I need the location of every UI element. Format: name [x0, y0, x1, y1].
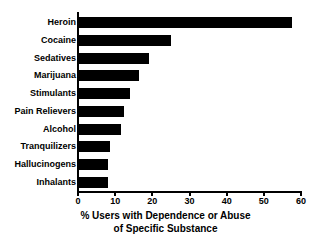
x-tick-label: 0	[63, 196, 93, 206]
x-tick-label: 10	[100, 196, 130, 206]
category-label: Heroin	[0, 17, 76, 28]
category-label: Sedatives	[0, 53, 76, 64]
category-label: Alcohol	[0, 124, 76, 135]
bar	[78, 177, 108, 188]
bar	[78, 17, 292, 28]
bar-row	[78, 141, 301, 152]
bar-chart: HeroinCocaineSedativesMarijuanaStimulant…	[0, 0, 331, 241]
x-tick-label: 40	[212, 196, 242, 206]
plot-area	[78, 14, 301, 191]
bar	[78, 159, 108, 170]
bar	[78, 141, 110, 152]
category-label: Hallucinogens	[0, 159, 76, 170]
x-tick-label: 20	[137, 196, 167, 206]
category-label: Stimulants	[0, 88, 76, 99]
category-label: Marijuana	[0, 70, 76, 81]
category-label: Pain Relievers	[0, 106, 76, 117]
bar	[78, 35, 171, 46]
bar-row	[78, 35, 301, 46]
bar	[78, 106, 124, 117]
x-axis-title-line-1: % Users with Dependence or Abuse	[0, 209, 331, 222]
x-axis-title-line-2: of Specific Substance	[0, 222, 331, 235]
bar-row	[78, 70, 301, 81]
bar-row	[78, 106, 301, 117]
bar-row	[78, 17, 301, 28]
bar	[78, 53, 149, 64]
x-tick-label: 60	[286, 196, 316, 206]
bar-row	[78, 124, 301, 135]
bar-row	[78, 177, 301, 188]
bar-row	[78, 88, 301, 99]
bar	[78, 70, 139, 81]
bar-row	[78, 159, 301, 170]
bar	[78, 124, 121, 135]
bar	[78, 88, 130, 99]
x-axis-title: % Users with Dependence or Abuse of Spec…	[0, 209, 331, 235]
x-tick-label: 30	[175, 196, 205, 206]
category-label: Cocaine	[0, 35, 76, 46]
category-label: Inhalants	[0, 177, 76, 188]
x-tick-label: 50	[249, 196, 279, 206]
category-label: Tranquilizers	[0, 141, 76, 152]
bar-row	[78, 53, 301, 64]
